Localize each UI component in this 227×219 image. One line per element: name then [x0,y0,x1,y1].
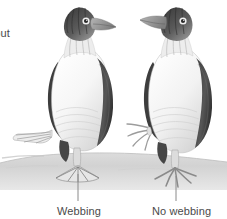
right-bird-raised-unwebbed-foot [127,124,152,150]
figure-container: hout Webbing No webbing [0,0,227,219]
ground [0,153,227,190]
label-no-webbing: No webbing [152,205,211,217]
label-webbing: Webbing [57,205,101,217]
left-bird-raised-webbed-foot [13,130,52,143]
bird-illustration [0,0,227,219]
label-without-cropped: hout [0,27,10,39]
